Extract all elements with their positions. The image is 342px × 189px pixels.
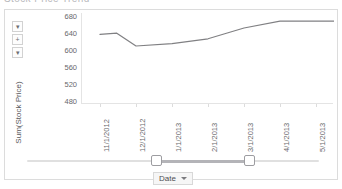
y-tick-label: 560: [55, 63, 77, 72]
cutoff-title-strip: Stock Price Trend: [0, 0, 342, 7]
date-dropdown-label: Date: [159, 174, 176, 183]
data-series-line: [100, 21, 334, 46]
chart-widget-screen: Stock Price Trend ▾ + ▾ Sum(Stock Price)…: [0, 0, 342, 189]
y-axis-title: Sum(Stock Price): [14, 59, 23, 167]
x-tick-label: 2/1/2013: [210, 123, 219, 152]
slider-selected-range[interactable]: [155, 160, 249, 163]
chart-card: ▾ + ▾ Sum(Stock Price) 68064060056052048…: [4, 9, 338, 180]
zoom-in-icon[interactable]: +: [12, 34, 23, 45]
x-tick-mark: [316, 104, 317, 107]
slider-handle-end[interactable]: [244, 155, 255, 166]
x-tick-mark: [280, 104, 281, 107]
zoom-out-icon[interactable]: ▾: [12, 21, 23, 32]
date-dropdown[interactable]: Date: [153, 172, 193, 185]
pan-axis-icon[interactable]: ▾: [12, 47, 23, 58]
x-tick-label: 12/1/2012: [138, 119, 147, 152]
y-tick-label: 520: [55, 80, 77, 89]
x-tick-label: 3/1/2013: [246, 123, 255, 152]
x-tick-mark: [172, 104, 173, 107]
y-tick-label: 480: [55, 97, 77, 106]
y-tick-label: 640: [55, 29, 77, 38]
x-tick-label: 5/1/2013: [318, 123, 327, 152]
ghost-title-text: Stock Price Trend: [4, 0, 90, 4]
x-axis-tick-labels: 11/1/201212/1/20121/1/20132/1/20133/1/20…: [55, 114, 334, 154]
plot-wrapper: 680640600560520480: [55, 13, 334, 114]
x-tick-mark: [100, 104, 101, 107]
y-tick-label: 680: [55, 12, 77, 21]
plot-area[interactable]: [81, 13, 333, 104]
x-tick-label: 11/1/2012: [102, 119, 111, 152]
x-tick-label: 1/1/2013: [174, 123, 183, 152]
line-chart-svg: [82, 13, 334, 104]
x-tick-mark: [244, 104, 245, 107]
date-range-slider[interactable]: [27, 154, 319, 168]
x-tick-mark: [208, 104, 209, 107]
x-tick-label: 4/1/2013: [282, 123, 291, 152]
y-tick-label: 600: [55, 46, 77, 55]
x-tick-mark: [136, 104, 137, 107]
chevron-down-icon: [181, 177, 187, 180]
slider-handle-start[interactable]: [151, 155, 162, 166]
y-axis-tick-labels: 680640600560520480: [55, 13, 77, 103]
y-axis-controls: ▾ + ▾ Sum(Stock Price): [8, 14, 28, 146]
